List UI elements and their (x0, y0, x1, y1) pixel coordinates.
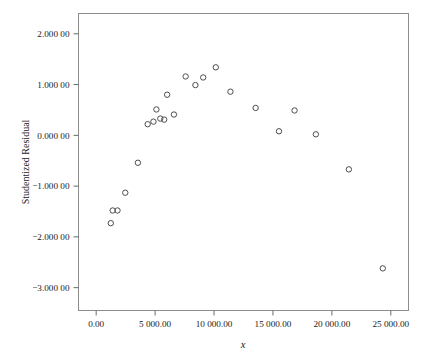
x-axis-title: x (240, 339, 246, 350)
x-tick-label: 5 000.00 (139, 319, 172, 329)
figure-background (0, 0, 424, 358)
y-tick-label: 2.000 00 (37, 29, 70, 39)
y-tick-label: −3.000 00 (32, 283, 70, 293)
plot-canvas: 0.005 000.0010 000.0015 000.0020 000.002… (0, 0, 424, 358)
x-tick-label: 15 000.00 (255, 319, 292, 329)
y-tick-label: −2.000 00 (32, 232, 70, 242)
x-tick-label: 25 000.00 (372, 319, 409, 329)
x-tick-label: 0.00 (88, 319, 104, 329)
y-axis-title: Studentized Residual (20, 119, 31, 204)
scatter-plot-figure: 0.005 000.0010 000.0015 000.0020 000.002… (0, 0, 424, 358)
x-tick-label: 20 000.00 (314, 319, 351, 329)
x-tick-label: 10 000.00 (196, 319, 233, 329)
y-tick-label: −1.000 00 (32, 181, 70, 191)
y-tick-label: 1.000 00 (37, 80, 70, 90)
y-tick-label: 0.000 00 (37, 131, 70, 141)
